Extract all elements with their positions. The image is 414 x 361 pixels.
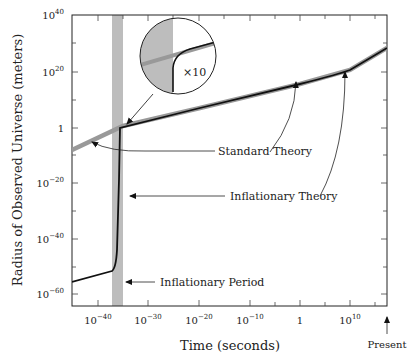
chart-canvas: ×10 Standard Theory Inflationary Theory … [0,0,414,361]
svg-text:1040: 1040 [42,8,64,21]
svg-text:10−10: 10−10 [236,313,264,326]
svg-text:10−60: 10−60 [36,287,64,300]
svg-text:1010: 1010 [339,313,361,326]
svg-text:10−40: 10−40 [36,232,64,245]
inflationary-theory-label: Inflationary Theory [230,190,338,203]
y-axis-title: Radius of Observed Universe (meters) [10,34,25,287]
svg-text:1020: 1020 [42,65,64,78]
inflationary-period-band [112,15,123,306]
x-tick-labels: 10−40 10−30 10−20 10−10 1 1010 [84,313,361,326]
x-axis-ticks [98,15,375,306]
standard-theory-label: Standard Theory [218,145,313,158]
svg-text:10−20: 10−20 [185,313,213,326]
svg-text:10−40: 10−40 [84,313,112,326]
annotation-arrows [92,72,387,334]
svg-text:10−20: 10−20 [36,176,64,189]
svg-text:1: 1 [58,123,64,134]
inflationary-period-label: Inflationary Period [160,276,264,289]
y-tick-labels: 1040 1020 1 10−20 10−40 10−60 [36,8,64,300]
inset-magnification-label: ×10 [183,66,206,79]
svg-text:10−30: 10−30 [134,313,162,326]
present-label: Present [368,339,407,350]
x-axis-title: Time (seconds) [180,338,280,353]
svg-text:1: 1 [297,315,303,326]
